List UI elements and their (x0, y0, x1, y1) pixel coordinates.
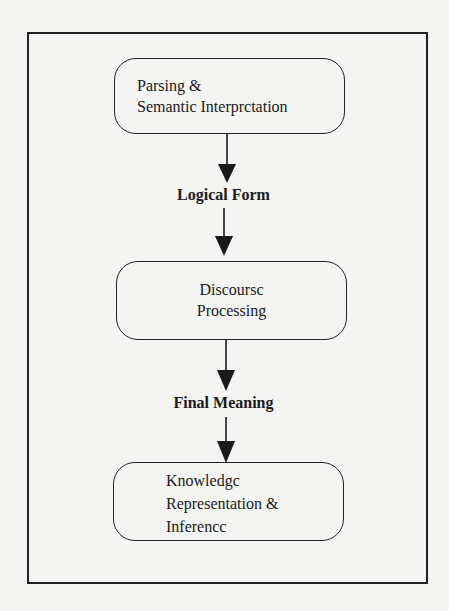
logical-form-label: Logical Form (0, 185, 448, 205)
stage-label-line: Discoursc (117, 279, 346, 300)
stage-label-line: Representation & (166, 492, 343, 515)
stage-knowledge-representation-inference: Knowledgc Representation & Inferencc (113, 462, 344, 541)
stage-label-line: Processing (117, 300, 346, 321)
final-meaning-label: Final Meaning (0, 393, 448, 413)
stage-discourse-processing: Discoursc Processing (116, 261, 347, 340)
stage-label-line: Parsing & (137, 75, 344, 96)
stage-label-line: Knowledgc (166, 469, 343, 492)
stage-label-line: Inferencc (166, 515, 343, 538)
stage-parsing-semantic-interpretation: Parsing & Semantic Interprctation (114, 58, 345, 134)
stage-label-line: Semantic Interprctation (137, 96, 344, 117)
